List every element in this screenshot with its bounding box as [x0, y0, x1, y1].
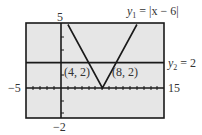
ymax-label: 5	[57, 11, 63, 23]
viewing-window	[26, 23, 164, 118]
xmin-label: −5	[8, 82, 21, 94]
intersection-label-right: (8, 2)	[112, 66, 138, 78]
y1-rhs: = |x − 6|	[136, 4, 178, 18]
intersection-label-left: (4, 2)	[64, 66, 90, 78]
y2-equation-label: y2 = 2	[168, 57, 196, 74]
xmax-label: 15	[168, 82, 180, 94]
y2-rhs: = 2	[177, 56, 196, 70]
y1-equation-label: y1 = |x − 6|	[127, 5, 179, 22]
ymin-label: −2	[53, 121, 66, 133]
